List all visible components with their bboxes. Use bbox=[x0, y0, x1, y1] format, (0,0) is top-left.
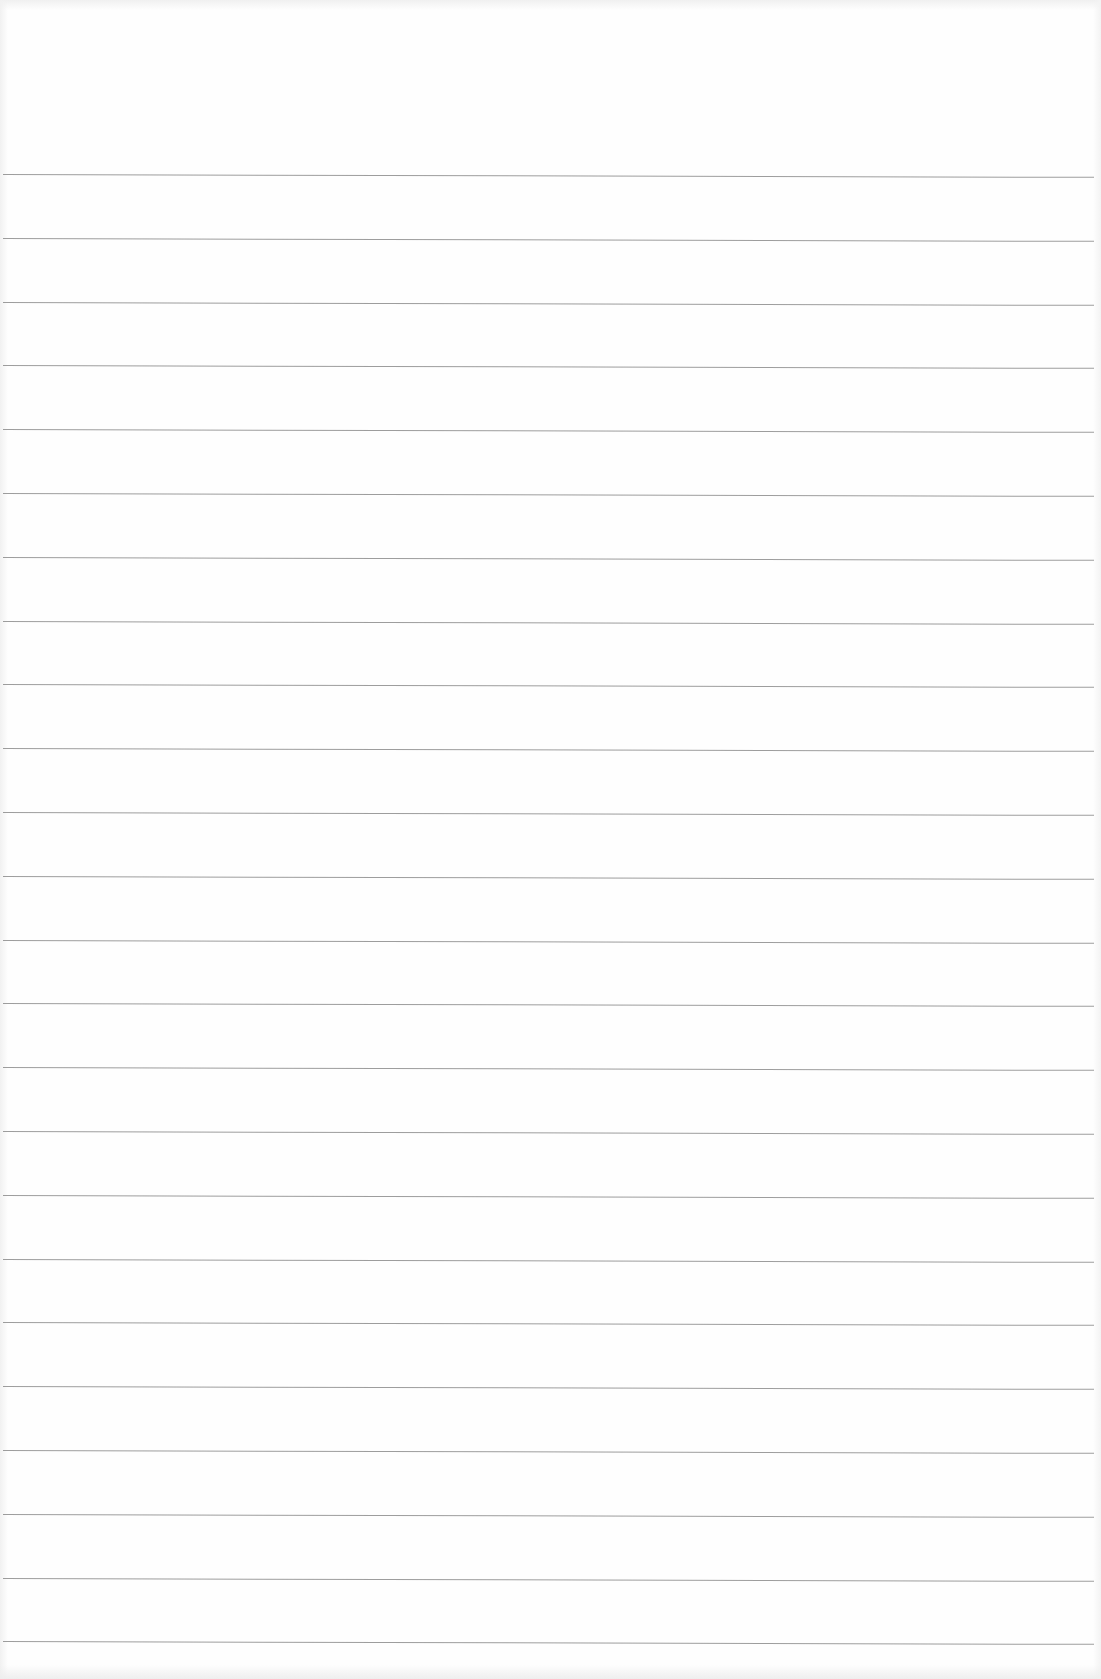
lined-paper-sheet bbox=[0, 0, 1101, 1679]
bottom-edge-shadow bbox=[0, 1665, 1101, 1679]
ruled-line bbox=[3, 1259, 1094, 1263]
ruled-line bbox=[3, 940, 1094, 944]
ruled-line bbox=[3, 1386, 1094, 1390]
left-edge-shadow bbox=[0, 0, 8, 1679]
ruled-line bbox=[3, 684, 1094, 688]
ruled-line bbox=[3, 1514, 1094, 1518]
ruled-line bbox=[3, 1450, 1094, 1454]
ruled-line bbox=[3, 1578, 1094, 1582]
top-edge-shadow bbox=[0, 0, 1101, 10]
ruled-line bbox=[3, 365, 1094, 369]
ruled-line bbox=[3, 812, 1094, 816]
ruled-line bbox=[3, 1003, 1094, 1007]
ruled-line bbox=[3, 748, 1094, 752]
ruled-line bbox=[3, 429, 1094, 433]
ruled-line bbox=[3, 621, 1094, 625]
ruled-line bbox=[3, 493, 1094, 497]
right-edge-shadow bbox=[1093, 0, 1101, 1679]
ruled-line bbox=[3, 1641, 1094, 1645]
ruled-line bbox=[3, 238, 1094, 242]
ruled-line bbox=[3, 876, 1094, 880]
ruled-line bbox=[3, 1322, 1094, 1326]
ruled-line bbox=[3, 174, 1094, 178]
ruled-line bbox=[3, 302, 1094, 306]
ruled-line bbox=[3, 1131, 1094, 1135]
ruled-line bbox=[3, 1067, 1094, 1071]
ruled-line bbox=[3, 1195, 1094, 1199]
ruled-line bbox=[3, 557, 1094, 561]
